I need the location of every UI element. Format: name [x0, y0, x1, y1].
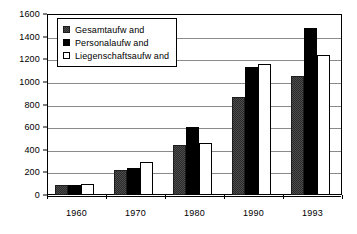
x-axis-tick-mark [47, 195, 48, 199]
y-axis: 16001400120010008006004002000 [0, 14, 47, 195]
legend-item-label: Personalaufw and [75, 38, 149, 48]
y-axis-tick-label: 1000 [19, 77, 40, 86]
y-axis-tick-label: 400 [24, 145, 40, 154]
legend-item: Gesamtaufw and [63, 23, 169, 36]
gridline [48, 83, 341, 84]
x-axis-tick-label: 1960 [66, 208, 87, 218]
bar-chart: 16001400120010008006004002000 1960197019… [0, 0, 357, 234]
legend-swatch-icon [63, 39, 70, 46]
legend-item: Liegenschaftsaufw and [63, 49, 169, 62]
gridline [48, 106, 341, 107]
x-axis: 19601970198019901993 [47, 195, 342, 231]
y-axis-tick-label: 800 [24, 100, 40, 109]
y-axis-tick-label: 200 [24, 168, 40, 177]
legend-swatch-icon [63, 26, 70, 33]
gridline [48, 173, 341, 174]
x-axis-tick-mark [106, 195, 107, 199]
y-axis-tick-label: 600 [24, 123, 40, 132]
chart-legend: Gesamtaufw andPersonalaufw andLiegenscha… [57, 18, 177, 67]
x-axis-tick-label: 1993 [302, 208, 323, 218]
legend-item-label: Liegenschaftsaufw and [75, 51, 169, 61]
y-axis-tick-label: 1600 [19, 10, 40, 19]
legend-item-label: Gesamtaufw and [75, 25, 144, 35]
x-axis-tick-mark [342, 195, 343, 199]
x-axis-tick-mark [283, 195, 284, 199]
x-axis-tick-mark [224, 195, 225, 199]
legend-swatch-icon [63, 52, 70, 59]
y-axis-tick-label: 1400 [19, 32, 40, 41]
y-axis-tick-label: 0 [35, 191, 40, 200]
x-axis-tick-label: 1990 [243, 208, 264, 218]
gridline [48, 128, 341, 129]
legend-item: Personalaufw and [63, 36, 169, 49]
x-axis-tick-label: 1970 [125, 208, 146, 218]
y-axis-tick-label: 1200 [19, 55, 40, 64]
x-axis-tick-mark [165, 195, 166, 199]
gridline [48, 151, 341, 152]
x-axis-tick-label: 1980 [184, 208, 205, 218]
